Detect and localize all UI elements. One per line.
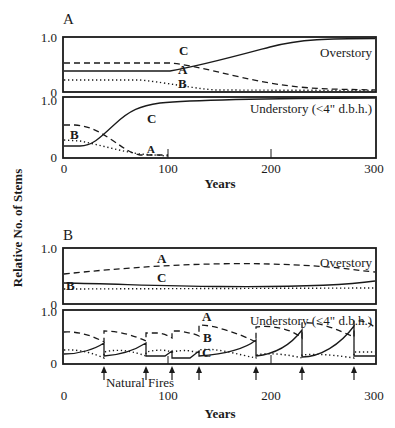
understory-title: Understory (<4" d.b.h.) — [250, 101, 372, 116]
x-tick-0: 0 — [61, 161, 68, 176]
panel-b-understory: 1.0 0 Understory (<4" d.b.h.) A B C — [41, 304, 376, 371]
y-tick-1: 1.0 — [41, 30, 57, 45]
x-axis-label: Years — [204, 176, 235, 191]
x-tick-300: 300 — [364, 388, 384, 403]
curve-label-c: C — [157, 270, 166, 285]
curve-label-c: C — [179, 43, 188, 58]
panel-a-overstory: 1.0 0 Overstory C A B — [41, 30, 376, 100]
overstory-title: Overstory — [320, 45, 372, 60]
series-c-line — [64, 281, 375, 287]
fire-arrow-icon — [196, 366, 202, 380]
curve-label-a: A — [157, 251, 167, 266]
figure-canvas: Relative No. of Stems A 1.0 0 Overstory … — [0, 0, 395, 428]
panel-b-label: B — [63, 227, 73, 243]
series-c-line — [64, 326, 375, 358]
curve-label-c: C — [202, 345, 211, 360]
curve-label-b: B — [66, 278, 75, 293]
x-tick-100: 100 — [158, 388, 178, 403]
series-b-line — [64, 80, 375, 91]
curve-label-b: B — [203, 330, 212, 345]
fire-arrow-icon — [299, 366, 305, 380]
x-tick-300: 300 — [364, 161, 384, 176]
y-tick-0: 0 — [51, 356, 58, 371]
y-tick-0: 0 — [51, 150, 58, 165]
x-tick-200: 200 — [261, 161, 281, 176]
overstory-title: Overstory — [320, 255, 372, 270]
curve-label-c: C — [147, 111, 156, 126]
panel-a-label: A — [63, 11, 74, 27]
panel-b-overstory: 1.0 0 Overstory A C B — [41, 241, 376, 312]
curve-label-a: A — [147, 143, 155, 155]
y-tick-1: 1.0 — [41, 93, 57, 108]
y-tick-1: 1.0 — [41, 304, 57, 319]
curve-label-b: B — [178, 76, 187, 91]
x-axis-label: Years — [204, 406, 235, 421]
fire-arrow-icon — [253, 366, 259, 380]
y-axis-label: Relative No. of Stems — [10, 169, 25, 287]
curve-label-a: A — [178, 62, 188, 77]
y-tick-1: 1.0 — [41, 241, 57, 256]
panel-a-understory: 1.0 0 Understory (<4" d.b.h.) C B A — [41, 93, 376, 165]
x-tick-100: 100 — [158, 161, 178, 176]
x-tick-200: 200 — [261, 388, 281, 403]
curve-label-a: A — [202, 309, 212, 324]
series-a-line — [64, 63, 375, 90]
fire-arrow-icon — [351, 366, 357, 380]
x-tick-0: 0 — [61, 388, 68, 403]
curve-label-b: B — [70, 127, 79, 142]
series-b-line — [64, 288, 375, 289]
